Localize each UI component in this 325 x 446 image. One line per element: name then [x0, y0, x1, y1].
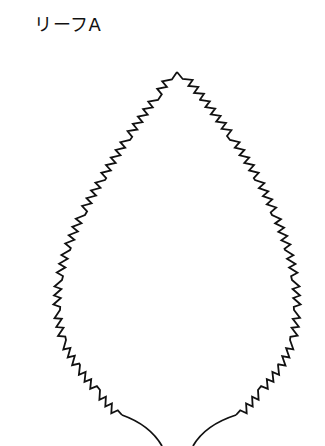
leaf-right-edge — [177, 72, 301, 415]
leaf-base-left — [122, 415, 162, 446]
leaf-base-right — [193, 415, 236, 446]
leaf-left-edge — [53, 72, 177, 415]
leaf-diagram — [0, 0, 325, 446]
